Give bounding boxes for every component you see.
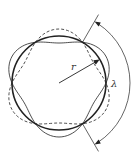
arc-arrowhead-bottom-icon	[95, 140, 101, 145]
extension-line-bottom	[83, 124, 99, 152]
arc-arrowhead-top-icon	[95, 22, 101, 27]
deformed-ring-solid	[9, 42, 109, 137]
extension-line-top	[83, 15, 99, 43]
radius-line	[59, 62, 96, 84]
wavelength-label: λ	[110, 78, 117, 89]
radius-label: r	[71, 61, 77, 72]
ring-wave-diagram: r λ	[0, 0, 136, 161]
